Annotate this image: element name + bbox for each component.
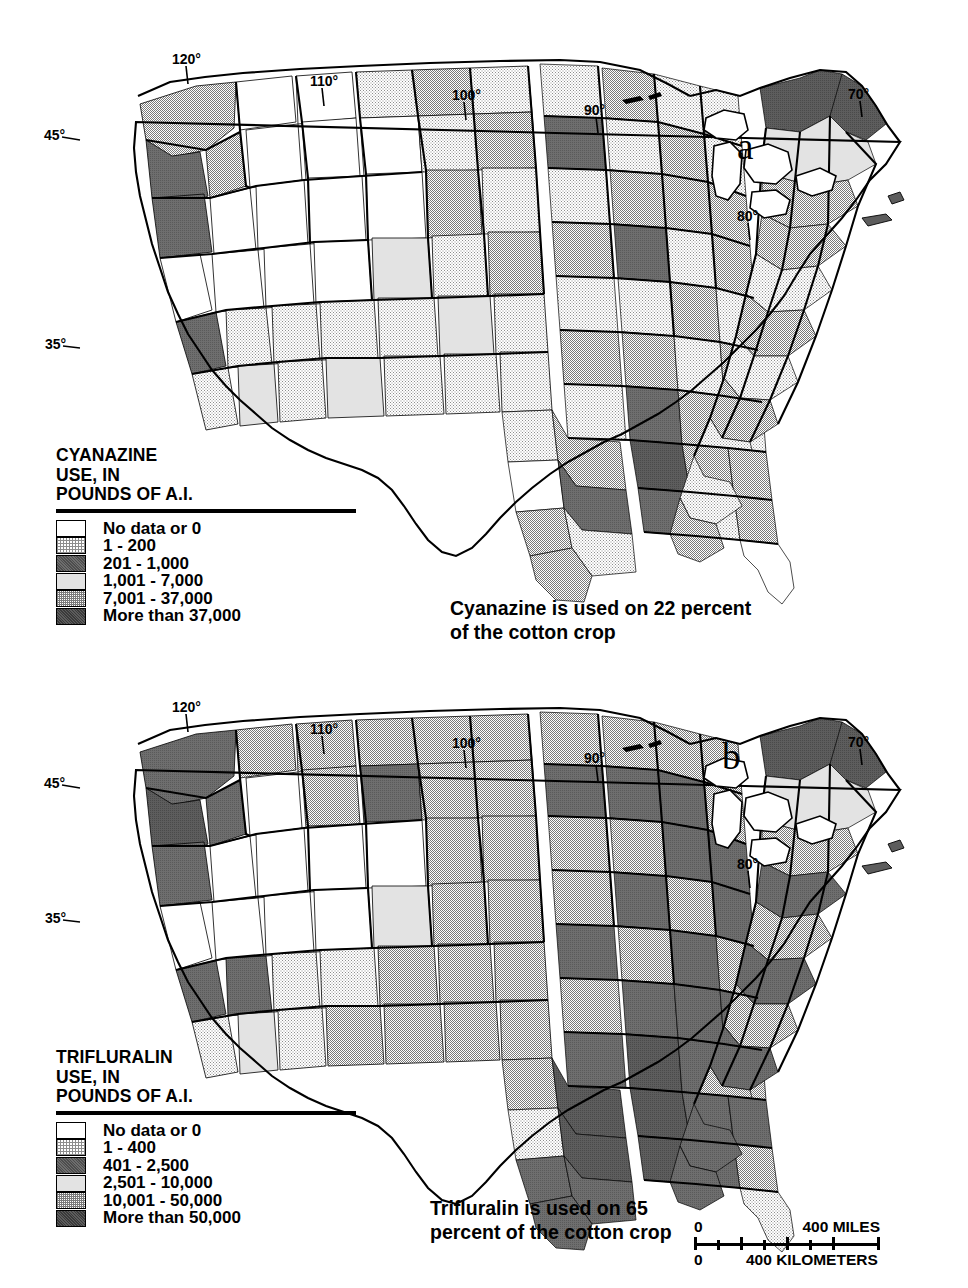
legend-row-label: More than 50,000 xyxy=(103,1209,241,1227)
legend-row-label: 10,001 - 50,000 xyxy=(103,1192,222,1210)
figure-root: 120° 110° 100° 90° 80° 70° 45° 35° xyxy=(0,0,968,1288)
legend-swatch-class4-icon xyxy=(56,590,86,607)
legend-swatch-box xyxy=(56,608,90,625)
legend-row[interactable]: 201 - 1,000 xyxy=(56,555,356,573)
legend-swatch-box xyxy=(56,555,90,572)
legend-swatch-class2-icon xyxy=(56,1157,86,1174)
legend-swatch-class2-icon xyxy=(56,555,86,572)
legend-swatch-class3-icon xyxy=(56,1175,86,1192)
legend-row[interactable]: No data or 0 xyxy=(56,520,356,538)
caption-cyanazine: Cyanazine is used on 22 percent of the c… xyxy=(450,596,751,644)
graticule-label-45-b: 45° xyxy=(44,776,65,790)
scale-bar-tick xyxy=(717,1240,720,1250)
scale-bar-miles-zero: 0 xyxy=(694,1218,703,1236)
legend-row-label: 1 - 400 xyxy=(103,1139,156,1157)
scale-bar-graphic xyxy=(694,1237,880,1250)
legend-swatch-box xyxy=(56,573,90,590)
legend-swatch-class5-icon xyxy=(56,608,86,625)
legend-title-line1: CYANAZINE xyxy=(56,446,356,466)
legend-row[interactable]: 401 - 2,500 xyxy=(56,1157,356,1175)
legend-divider xyxy=(56,509,356,513)
legend-row-label: No data or 0 xyxy=(103,1122,201,1140)
panel-letter-b: b xyxy=(722,738,741,775)
graticule-label-45-a: 45° xyxy=(44,128,65,142)
legend-row[interactable]: 2,501 - 10,000 xyxy=(56,1174,356,1192)
legend-swatch-box xyxy=(56,1210,90,1227)
map-panel-b: 120° 110° 100° 90° 80° 70° 45° 35° xyxy=(0,648,968,1288)
panel-letter-a: a xyxy=(737,128,753,165)
graticule-label-100-b: 100° xyxy=(452,736,481,750)
legend-title-line3: POUNDS OF A.I. xyxy=(56,1087,356,1107)
scale-bar-tick xyxy=(763,1240,766,1250)
graticule-label-90-b: 90° xyxy=(584,751,605,765)
scale-bar-tick xyxy=(877,1237,880,1250)
legend-class-list: No data or 0 1 - 400 401 - 2,500 xyxy=(56,1122,356,1228)
graticule-label-70-a: 70° xyxy=(848,87,869,101)
legend-row[interactable]: More than 37,000 xyxy=(56,607,356,625)
graticule-label-120-a: 120° xyxy=(172,52,201,66)
graticule-label-80-b: 80° xyxy=(737,857,758,871)
map-panel-a: 120° 110° 100° 90° 80° 70° 45° 35° xyxy=(0,0,968,648)
legend-class-list: No data or 0 1 - 200 201 - 1,000 xyxy=(56,520,356,626)
legend-title-line3: POUNDS OF A.I. xyxy=(56,485,356,505)
legend-row[interactable]: 10,001 - 50,000 xyxy=(56,1192,356,1210)
legend-swatch-box xyxy=(56,1157,90,1174)
legend-swatch-box xyxy=(56,1175,90,1192)
legend-swatch-no-data-icon xyxy=(56,1122,86,1139)
graticule-label-35-a: 35° xyxy=(45,337,66,351)
scale-bar-tick xyxy=(786,1237,789,1250)
legend-swatch-no-data-icon xyxy=(56,520,86,537)
legend-row-label: 401 - 2,500 xyxy=(103,1157,189,1175)
legend-trifluralin: TRIFLURALIN USE, IN POUNDS OF A.I. No da… xyxy=(56,1048,356,1227)
legend-title-line1: TRIFLURALIN xyxy=(56,1048,356,1068)
legend-row[interactable]: 7,001 - 37,000 xyxy=(56,590,356,608)
scale-bar-miles-row: 0 400 MILES xyxy=(694,1218,880,1236)
legend-row[interactable]: 1,001 - 7,000 xyxy=(56,572,356,590)
legend-row[interactable]: 1 - 400 xyxy=(56,1139,356,1157)
scale-bar: 0 400 MILES 0 400 KILOMETERS xyxy=(694,1218,956,1269)
scale-bar-tick xyxy=(740,1237,743,1250)
legend-swatch-box xyxy=(56,520,90,537)
graticule-label-110-a: 110° xyxy=(310,74,338,88)
legend-swatch-class4-icon xyxy=(56,1192,86,1209)
legend-swatch-box xyxy=(56,590,90,607)
scale-bar-tick xyxy=(809,1240,812,1250)
legend-row-label: 7,001 - 37,000 xyxy=(103,590,213,608)
graticule-label-100-a: 100° xyxy=(452,88,481,102)
legend-title-line2: USE, IN xyxy=(56,466,356,486)
legend-swatch-box xyxy=(56,1139,90,1156)
graticule-label-70-b: 70° xyxy=(848,735,869,749)
legend-swatch-box xyxy=(56,537,90,554)
legend-swatch-class3-icon xyxy=(56,573,86,590)
legend-cyanazine: CYANAZINE USE, IN POUNDS OF A.I. No data… xyxy=(56,446,356,625)
legend-swatch-box xyxy=(56,1192,90,1209)
legend-row-label: 1,001 - 7,000 xyxy=(103,572,203,590)
legend-divider xyxy=(56,1111,356,1115)
graticule-label-35-b: 35° xyxy=(45,911,66,925)
scale-bar-miles-value: 400 MILES xyxy=(802,1218,880,1236)
legend-swatch-class5-icon xyxy=(56,1210,86,1227)
legend-title-line2: USE, IN xyxy=(56,1068,356,1088)
legend-swatch-class1-icon xyxy=(56,537,86,554)
legend-row[interactable]: More than 50,000 xyxy=(56,1209,356,1227)
scale-bar-tick xyxy=(832,1237,835,1250)
legend-row-label: 201 - 1,000 xyxy=(103,555,189,573)
scale-bar-km-row: 0 400 KILOMETERS xyxy=(694,1251,934,1269)
legend-row-label: 1 - 200 xyxy=(103,537,156,555)
legend-row-label: No data or 0 xyxy=(103,520,201,538)
legend-swatch-class1-icon xyxy=(56,1139,86,1156)
scale-bar-tick xyxy=(694,1237,697,1250)
legend-row[interactable]: No data or 0 xyxy=(56,1122,356,1140)
graticule-label-90-a: 90° xyxy=(584,103,605,117)
legend-row-label: More than 37,000 xyxy=(103,607,241,625)
legend-row-label: 2,501 - 10,000 xyxy=(103,1174,213,1192)
graticule-label-120-b: 120° xyxy=(172,700,201,714)
legend-swatch-box xyxy=(56,1122,90,1139)
scale-bar-km-value: 400 KILOMETERS xyxy=(746,1251,878,1269)
caption-trifluralin: Trifluralin is used on 65 percent of the… xyxy=(430,1196,672,1244)
graticule-label-110-b: 110° xyxy=(310,722,338,736)
graticule-label-80-a: 80° xyxy=(737,209,758,223)
legend-row[interactable]: 1 - 200 xyxy=(56,537,356,555)
